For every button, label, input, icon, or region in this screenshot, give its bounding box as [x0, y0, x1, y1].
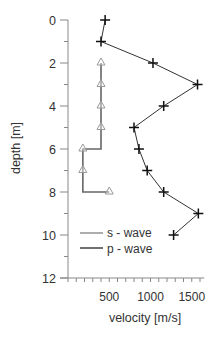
triangle-marker-icon: [105, 187, 113, 194]
x-tick-label: 1000: [137, 290, 164, 304]
plus-marker-icon: [129, 123, 139, 133]
y-axis: 024681012: [42, 14, 68, 286]
plus-marker-icon: [96, 37, 106, 47]
y-tick-label: 6: [49, 143, 56, 157]
plus-marker-icon: [159, 187, 169, 197]
x-tick-label: 1500: [178, 290, 205, 304]
plus-marker-icon: [159, 101, 169, 111]
plus-marker-icon: [134, 144, 144, 154]
velocity-depth-chart: 024681012 50010001500 s - wave p - wave …: [0, 0, 220, 340]
y-tick-label: 4: [49, 100, 56, 114]
y-tick-label: 12: [42, 272, 56, 286]
triangle-marker-icon: [79, 166, 87, 173]
legend-p-wave-label: p - wave: [107, 242, 153, 256]
y-tick-label: 10: [42, 229, 56, 243]
triangle-marker-icon: [97, 80, 105, 87]
triangle-marker-icon: [97, 58, 105, 65]
x-axis-label: velocity [m/s]: [109, 311, 181, 325]
x-tick-label: 500: [99, 290, 119, 304]
legend-s-wave-label: s - wave: [107, 226, 152, 240]
plus-marker-icon: [100, 15, 110, 25]
y-tick-label: 0: [49, 14, 56, 28]
x-axis: 50010001500: [60, 278, 205, 304]
y-tick-label: 2: [49, 57, 56, 71]
s-wave-series: [79, 58, 113, 194]
plus-marker-icon: [148, 58, 158, 68]
plus-marker-icon: [193, 80, 203, 90]
triangle-marker-icon: [79, 144, 87, 151]
legend: s - wave p - wave: [80, 226, 153, 256]
triangle-marker-icon: [97, 101, 105, 108]
p-wave-series: [96, 15, 203, 240]
y-tick-label: 8: [49, 186, 56, 200]
plus-marker-icon: [142, 166, 152, 176]
y-axis-label: depth [m]: [9, 122, 23, 174]
triangle-marker-icon: [97, 123, 105, 130]
